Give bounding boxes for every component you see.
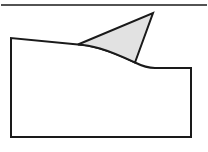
main-body-outline (11, 38, 191, 137)
figure-canvas (0, 0, 208, 152)
figure-svg (0, 0, 208, 152)
